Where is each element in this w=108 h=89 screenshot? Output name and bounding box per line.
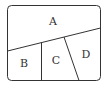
region-label-c: C — [52, 54, 60, 67]
region-label-a: A — [48, 15, 58, 28]
region-label-b: B — [20, 57, 28, 70]
partition-diagram: A B C D — [0, 0, 108, 89]
slanted-divider-c-d — [64, 37, 79, 81]
region-label-d: D — [82, 48, 91, 61]
